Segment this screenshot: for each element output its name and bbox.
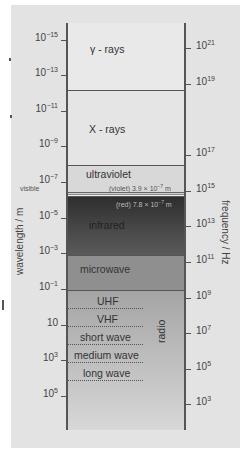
frequency-tick-label: 1019 — [196, 76, 215, 87]
frequency-tick — [185, 333, 191, 334]
dotted-divider — [67, 362, 143, 363]
frequency-tick — [185, 84, 191, 85]
frequency-tick — [185, 155, 191, 156]
wavelength-tick — [61, 360, 67, 361]
frequency-tick — [185, 404, 191, 405]
frequency-tick — [185, 226, 191, 227]
violet-wavelength-note: (violet) 3.9 × 10−7 m — [109, 183, 171, 192]
frequency-tick — [185, 262, 191, 263]
short-wave-label: short wave — [80, 331, 131, 343]
boundary-line — [67, 255, 185, 256]
wavelength-tick — [61, 182, 67, 183]
boundary-line — [67, 165, 185, 166]
wavelength-tick-label: 10−5 — [39, 210, 58, 221]
spectrum-column: γ - rays X - rays ultraviolet (violet) 3… — [67, 23, 185, 430]
wavelength-tick-label: 10−9 — [39, 138, 58, 149]
vhf-label: VHF — [97, 313, 118, 325]
margin-mark — [10, 115, 12, 118]
wavelength-tick — [61, 75, 67, 76]
boundary-line — [67, 290, 185, 291]
medium-wave-label: medium wave — [74, 349, 139, 361]
wavelength-tick — [61, 325, 67, 326]
wavelength-tick-label: 10−3 — [39, 245, 58, 256]
gamma-band — [67, 23, 185, 90]
frequency-tick — [185, 48, 191, 49]
frequency-tick-label: 1013 — [196, 218, 215, 229]
margin-mark — [2, 300, 4, 310]
wavelength-tick — [61, 289, 67, 290]
wavelength-tick — [61, 146, 67, 147]
frequency-tick — [185, 191, 191, 192]
wavelength-tick — [61, 396, 67, 397]
xray-band — [67, 90, 185, 165]
xray-label: X - rays — [89, 123, 125, 135]
frequency-tick-label: 1011 — [196, 254, 214, 265]
wavelength-tick — [61, 40, 67, 41]
wavelength-tick-label: 10−1 — [39, 281, 58, 292]
visible-label: visible — [20, 185, 39, 192]
boundary-line — [67, 90, 185, 91]
margin-mark — [9, 58, 11, 61]
ultraviolet-label: ultraviolet — [86, 168, 131, 180]
frequency-tick-label: 1015 — [196, 183, 215, 194]
wavelength-tick — [61, 253, 67, 254]
frequency-tick-label: 109 — [196, 290, 211, 301]
wavelength-tick-label: 10 — [47, 317, 58, 328]
infrared-label: infrared — [89, 219, 125, 231]
wavelength-axis-line — [66, 23, 68, 430]
frequency-axis-title: frequency / Hz — [220, 200, 231, 264]
dotted-divider — [67, 344, 143, 345]
frequency-tick-label: 105 — [196, 361, 211, 372]
wavelength-axis-title: wavelength / m — [14, 208, 25, 275]
frequency-tick — [185, 298, 191, 299]
radio-label: radio — [155, 320, 167, 343]
gamma-label: γ - rays — [90, 43, 124, 55]
uhf-label: UHF — [97, 295, 119, 307]
frequency-tick-label: 1021 — [196, 40, 215, 51]
dotted-divider — [67, 308, 143, 309]
frequency-tick — [185, 369, 191, 370]
wavelength-tick — [61, 218, 67, 219]
wavelength-tick-label: 10−7 — [39, 174, 58, 185]
wavelength-tick — [61, 111, 67, 112]
red-wavelength-note: (red) 7.8 × 10−7 m — [116, 199, 172, 208]
frequency-tick-label: 107 — [196, 325, 211, 336]
wavelength-tick-label: 10−13 — [35, 67, 58, 78]
long-wave-label: long wave — [83, 367, 130, 379]
frequency-tick-label: 103 — [196, 396, 211, 407]
wavelength-tick-label: 103 — [43, 352, 58, 363]
dotted-divider — [67, 380, 143, 381]
wavelength-tick-label: 10−15 — [35, 32, 58, 43]
wavelength-tick-label: 105 — [43, 388, 58, 399]
microwave-label: microwave — [80, 263, 130, 275]
dotted-divider — [67, 326, 143, 327]
wavelength-tick-label: 10−11 — [36, 103, 58, 114]
frequency-tick-label: 1017 — [196, 147, 215, 158]
